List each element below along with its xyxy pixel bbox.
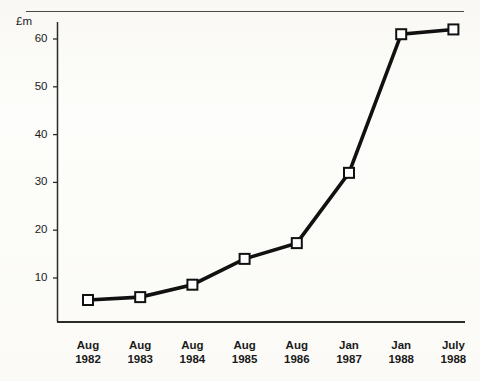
x-axis-tick-label: Aug1986 bbox=[270, 339, 324, 366]
line-chart-plot bbox=[0, 0, 480, 381]
x-tick-label-month: Aug bbox=[113, 339, 167, 353]
x-tick-label-year: 1987 bbox=[322, 353, 376, 367]
x-tick-label-month: Aug bbox=[218, 339, 272, 353]
data-point-marker bbox=[448, 24, 458, 34]
data-series-line bbox=[88, 29, 453, 300]
x-axis-tick-label: Aug1983 bbox=[113, 339, 167, 366]
data-point-markers bbox=[83, 24, 458, 305]
x-tick-label-year: 1982 bbox=[61, 353, 115, 367]
x-tick-label-month: July bbox=[426, 339, 480, 353]
y-axis-tick-label: 40 bbox=[22, 129, 48, 141]
x-tick-label-month: Jan bbox=[322, 339, 376, 353]
x-tick-label-month: Aug bbox=[165, 339, 219, 353]
x-axis-tick-label: Jan1987 bbox=[322, 339, 376, 366]
x-tick-label-month: Aug bbox=[61, 339, 115, 353]
data-point-marker bbox=[292, 238, 302, 248]
y-axis-tick-label: 50 bbox=[22, 81, 48, 93]
x-axis-tick-label: Jan1988 bbox=[374, 339, 428, 366]
x-tick-label-month: Jan bbox=[374, 339, 428, 353]
x-axis-tick-label: Aug1984 bbox=[165, 339, 219, 366]
data-point-marker bbox=[240, 254, 250, 264]
x-tick-label-year: 1985 bbox=[218, 353, 272, 367]
x-tick-label-year: 1988 bbox=[426, 353, 480, 367]
chart-page: £m 102030405060 Aug1982Aug1983Aug1984Aug… bbox=[0, 0, 480, 381]
x-axis-tick-label: July1988 bbox=[426, 339, 480, 366]
x-axis-tick-label: Aug1982 bbox=[61, 339, 115, 366]
data-point-marker bbox=[344, 168, 354, 178]
x-tick-label-month: Aug bbox=[270, 339, 324, 353]
x-axis-tick-label: Aug1985 bbox=[218, 339, 272, 366]
y-axis-tick-label: 60 bbox=[22, 33, 48, 45]
y-axis-tick-label: 30 bbox=[22, 176, 48, 188]
data-point-marker bbox=[396, 29, 406, 39]
data-point-marker bbox=[83, 295, 93, 305]
x-tick-label-year: 1988 bbox=[374, 353, 428, 367]
x-tick-label-year: 1984 bbox=[165, 353, 219, 367]
x-tick-label-year: 1986 bbox=[270, 353, 324, 367]
data-point-marker bbox=[135, 292, 145, 302]
data-point-marker bbox=[187, 280, 197, 290]
y-axis-tick-label: 20 bbox=[22, 224, 48, 236]
x-tick-label-year: 1983 bbox=[113, 353, 167, 367]
y-axis-tick-label: 10 bbox=[22, 272, 48, 284]
